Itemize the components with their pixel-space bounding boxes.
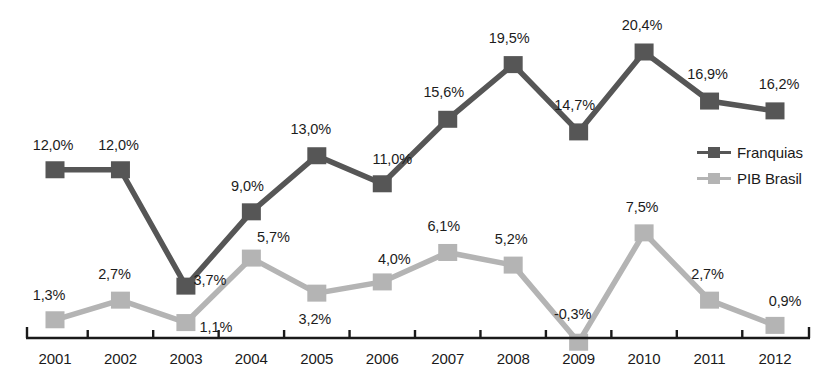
legend-item-pib-brasil[interactable]: PIB Brasil [697,165,833,191]
data-point-pib-brasil[interactable] [307,285,326,302]
data-point-pib-brasil[interactable] [242,250,261,267]
data-point-pib-brasil[interactable] [111,292,130,309]
legend-item-franquias[interactable]: Franquias [697,139,833,165]
legend-swatch-pib-brasil-icon [697,170,731,186]
data-point-pib-brasil[interactable] [569,334,588,351]
data-point-franquias[interactable] [242,203,261,220]
data-point-pib-brasil[interactable] [438,244,457,261]
series-lines [55,52,775,342]
data-point-franquias[interactable] [438,111,457,128]
data-point-franquias[interactable] [766,102,785,119]
data-point-franquias[interactable] [700,93,719,110]
data-point-franquias[interactable] [307,147,326,164]
legend-label-pib-brasil: PIB Brasil [737,170,802,187]
series-markers [46,43,785,350]
data-point-pib-brasil[interactable] [46,311,65,328]
data-point-franquias[interactable] [176,278,195,295]
series-line-franquias [55,52,775,286]
data-point-franquias[interactable] [111,161,130,178]
data-point-pib-brasil[interactable] [504,257,523,274]
data-point-pib-brasil[interactable] [635,224,654,241]
legend-swatch-franquias-icon [697,144,731,160]
data-point-franquias[interactable] [504,56,523,73]
chart-plot-area [0,0,833,389]
data-point-franquias[interactable] [46,161,65,178]
chart-legend: Franquias PIB Brasil [697,139,833,191]
data-point-pib-brasil[interactable] [766,317,785,334]
chart-container: 12,0%12,0%3,7%9,0%13,0%11,0%15,6%19,5%14… [0,0,833,389]
data-point-franquias[interactable] [635,43,654,60]
legend-label-franquias: Franquias [737,144,803,161]
x-axis [26,327,810,338]
data-point-pib-brasil[interactable] [700,292,719,309]
data-point-franquias[interactable] [373,175,392,192]
data-point-franquias[interactable] [569,123,588,140]
data-point-pib-brasil[interactable] [373,273,392,290]
data-point-pib-brasil[interactable] [176,314,195,331]
